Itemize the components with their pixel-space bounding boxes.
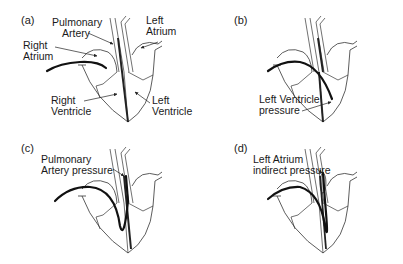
label-pulmonary-artery-pressure: Pulmonary Artery pressure [41, 154, 113, 176]
label-left-atrium: Left Atrium [146, 15, 176, 37]
label-line: Atrium [146, 26, 176, 37]
label-left-ventricle-pressure: Left Ventricle pressure [259, 94, 320, 116]
label-line: Atrium [23, 51, 53, 62]
panel-a-tag: (a) [21, 14, 34, 26]
label-line: pressure [259, 105, 320, 116]
diagram-canvas [0, 0, 403, 264]
label-pulmonary-artery: Pulmonary Artery [52, 17, 102, 39]
label-left-atrium-indirect-pressure: Left Atrium indirect pressure [253, 154, 331, 176]
label-line: Artery pressure [41, 165, 113, 176]
label-line: Artery [52, 28, 102, 39]
label-line: indirect pressure [253, 165, 331, 176]
label-line: Ventricle [152, 106, 192, 117]
panel-b-tag: (b) [234, 14, 247, 26]
label-line: Ventricle [51, 106, 91, 117]
label-right-ventricle: Right Ventricle [51, 95, 91, 117]
label-left-ventricle: Left Ventricle [152, 95, 192, 117]
panel-d-tag: (d) [234, 142, 247, 154]
label-right-atrium: Right Atrium [23, 40, 53, 62]
panel-c-tag: (c) [21, 142, 34, 154]
